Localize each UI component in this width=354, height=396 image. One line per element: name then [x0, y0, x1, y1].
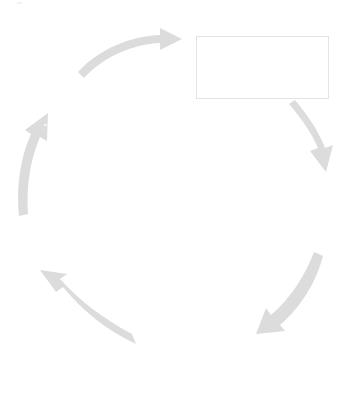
arrow-top [78, 28, 182, 78]
arrow-left [18, 113, 48, 216]
arrow-upper-right [289, 100, 333, 172]
diagram-canvas [0, 0, 354, 396]
artifact-speck-upper-left [44, 124, 47, 126]
artifact-speck-top-corner [17, 2, 22, 4]
arrow-bottom-left [40, 270, 136, 344]
arrow-lower-right [256, 252, 323, 334]
cycle-label-box[interactable] [196, 36, 329, 99]
